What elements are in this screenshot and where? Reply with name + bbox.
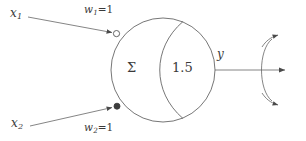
weight-label-w1-equals: = (98, 3, 107, 15)
input-label-x1-name: x (10, 6, 17, 20)
synapse-terminator-filled-x2 (114, 103, 120, 109)
input-label-x2: x2 (11, 117, 23, 130)
neuron-diagram-svg (0, 0, 306, 141)
weight-label-w2: w2=1 (84, 122, 113, 134)
weight-label-w2-equals: = (98, 121, 107, 133)
input-label-x2-name: x (11, 116, 18, 130)
input-label-x1: x1 (10, 7, 22, 20)
threshold-value: 1.5 (172, 61, 193, 74)
input-label-x1-subscript: 1 (17, 11, 22, 21)
output-label-y: y (217, 48, 224, 60)
summation-symbol: Σ (127, 61, 136, 74)
input-line-x1 (28, 17, 112, 33)
figure-canvas: x1 x2 w1=1 w2=1 Σ 1.5 y (0, 0, 306, 141)
synapse-terminator-open-x1 (113, 30, 119, 36)
input-label-x2-subscript: 2 (18, 121, 23, 131)
weight-label-w1-name: w (84, 3, 93, 15)
weight-label-w1-value: 1 (107, 3, 114, 15)
weight-label-w1: w1=1 (84, 4, 113, 16)
weight-label-w2-value: 1 (107, 121, 114, 133)
weight-label-w2-name: w (84, 121, 93, 133)
